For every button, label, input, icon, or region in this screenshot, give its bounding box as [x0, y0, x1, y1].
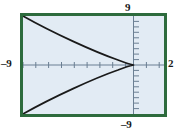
x-min-label: –9 — [1, 58, 12, 69]
y-min-label: –9 — [121, 119, 132, 130]
graph-figure: 9 –9 –9 2 — [0, 0, 178, 134]
calculator-screen — [20, 13, 167, 117]
y-max-label: 9 — [125, 2, 130, 13]
x-max-label: 2 — [168, 58, 173, 69]
plot-canvas — [23, 16, 164, 114]
